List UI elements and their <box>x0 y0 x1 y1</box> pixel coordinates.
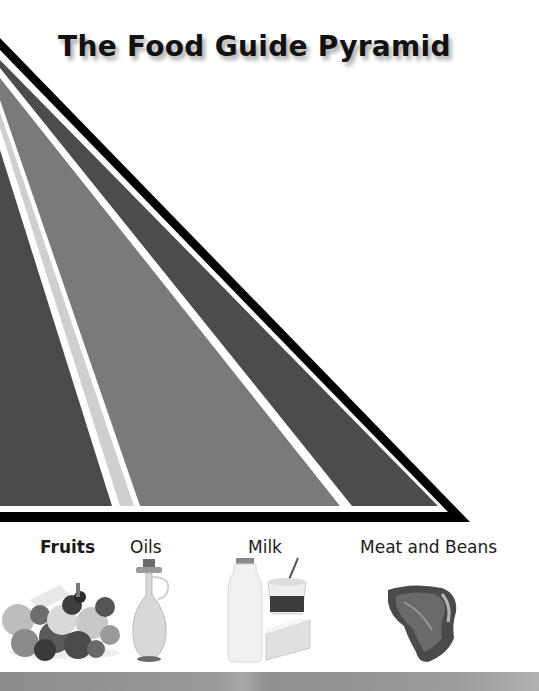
steak-image <box>382 582 462 667</box>
oil-cruet-image <box>130 555 180 670</box>
label-fruits: Fruits <box>40 537 95 557</box>
label-meat-and-beans: Meat and Beans <box>360 537 497 557</box>
label-oils: Oils <box>130 537 162 557</box>
bottom-decorative-band <box>0 672 539 691</box>
fruit-basket-image <box>0 565 130 665</box>
food-pyramid-graphic <box>0 0 539 540</box>
milk-bottle-yogurt-cheese-image <box>226 552 326 667</box>
